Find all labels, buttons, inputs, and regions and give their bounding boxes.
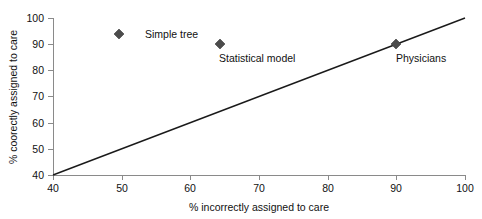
- x-tick-label-90: 90: [390, 182, 402, 194]
- y-axis-title: % coorectly assigned to care: [7, 30, 19, 164]
- x-tick-label-100: 100: [456, 182, 474, 194]
- y-tick-label-100: 100: [26, 12, 44, 24]
- diagonal-identity-line: [53, 18, 465, 175]
- y-tick-label-90: 90: [32, 38, 44, 50]
- data-point-label-simple-tree: Simple tree: [145, 28, 198, 40]
- x-axis-title: % incorrectly assigned to care: [189, 201, 329, 213]
- scatter-chart-figure: 100 90 80 70 60 50 40 40 50 60 70 80 90 …: [0, 0, 482, 219]
- data-point-label-statistical-model: Statistical model: [219, 52, 295, 64]
- x-tick-label-60: 60: [184, 182, 196, 194]
- x-tick-label-50: 50: [116, 182, 128, 194]
- data-point-label-physicians: Physicians: [396, 52, 446, 64]
- data-point-marker[interactable]: [114, 29, 124, 39]
- x-tick-label-40: 40: [47, 182, 59, 194]
- y-tick-label-50: 50: [32, 143, 44, 155]
- y-tick-label-80: 80: [32, 64, 44, 76]
- y-tick-label-40: 40: [32, 169, 44, 181]
- x-tick-label-80: 80: [322, 182, 334, 194]
- data-point-marker[interactable]: [215, 39, 225, 49]
- y-tick-label-60: 60: [32, 117, 44, 129]
- data-point-marker[interactable]: [391, 39, 401, 49]
- x-axis-ticks: [53, 175, 465, 180]
- y-axis-ticks: [48, 18, 53, 175]
- x-tick-label-70: 70: [253, 182, 265, 194]
- plot-canvas: 100 90 80 70 60 50 40 40 50 60 70 80 90 …: [0, 0, 482, 219]
- y-tick-label-70: 70: [32, 90, 44, 102]
